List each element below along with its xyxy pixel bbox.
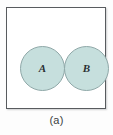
set-label-a: A	[39, 63, 46, 74]
set-circle-b: B	[64, 46, 109, 91]
figure-caption: (a)	[0, 114, 113, 126]
universal-set-rectangle: A B	[6, 7, 106, 109]
set-circle-a: A	[20, 46, 65, 91]
set-label-b: B	[83, 63, 90, 74]
venn-diagram-figure: A B (a)	[0, 0, 113, 135]
